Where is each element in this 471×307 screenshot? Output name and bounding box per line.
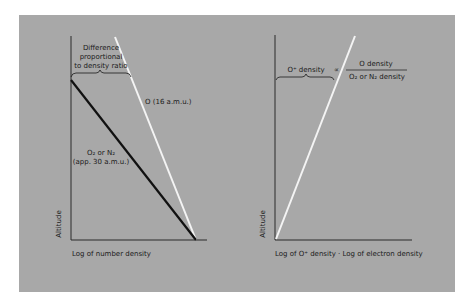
o-line-label: O (16 a.m.u.) — [145, 98, 192, 106]
left-diagram: Difference proportional to density ratio… — [55, 36, 207, 258]
diagram-canvas: Difference proportional to density ratio… — [0, 0, 471, 307]
brace-label-line1: Difference — [83, 44, 119, 52]
brace-label-line2: proportional — [80, 53, 123, 61]
molecular-line-label-line1: O₂ or N₂ — [87, 149, 115, 157]
brace-label-line3: to density ratio — [74, 62, 127, 70]
o-plus-brace — [276, 74, 334, 80]
fraction-denominator: O₂ or N₂ density — [349, 73, 405, 81]
left-x-axis-label: Log of number density — [72, 250, 151, 258]
difference-brace — [71, 70, 131, 77]
proportional-symbol: ∝ — [334, 66, 339, 74]
right-diagram: O⁺ density ∝ O density O₂ or N₂ density … — [259, 35, 423, 258]
fraction-numerator: O density — [359, 60, 392, 68]
molecular-line-label-line2: (app. 30 a.m.u.) — [73, 158, 130, 166]
left-y-axis-label: Altitude — [55, 210, 63, 237]
right-x-axis-label: Log of O⁺ density · Log of electron dens… — [275, 250, 423, 258]
right-y-axis-label: Altitude — [259, 210, 267, 237]
o-plus-brace-label: O⁺ density — [287, 66, 324, 74]
